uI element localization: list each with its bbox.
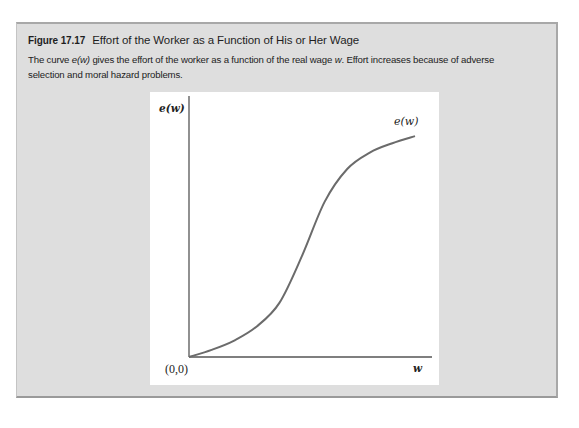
caption-italic-ew: e(w) [72,54,90,65]
figure-title: Figure 17.17 Effort of the Worker as a F… [28,34,359,46]
figure-caption: The curve e(w) gives the effort of the w… [28,52,528,82]
figure-number: Figure 17.17 [28,35,85,46]
plot-area: e(w) e(w) w (0,0) [150,92,439,385]
effort-curve [189,136,415,357]
curve-label: e(w) [394,115,419,128]
caption-text: gives the effort of the worker as a func… [90,54,335,65]
y-axis-label: e(w) [159,102,185,114]
caption-text: The curve [28,54,72,65]
x-axis-label: w [413,362,422,374]
chart-svg [150,92,439,385]
origin-label: (0,0) [165,362,188,377]
figure-title-text: Effort of the Worker as a Function of Hi… [92,34,359,46]
